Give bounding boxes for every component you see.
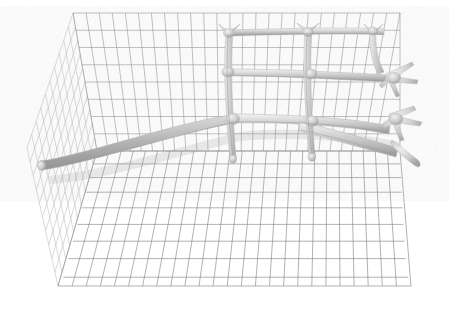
- junction-d: [303, 28, 314, 37]
- branch-1-bottom-tip: [229, 155, 236, 163]
- scene-svg: [0, 0, 449, 310]
- visualization-canvas: [0, 0, 449, 310]
- junction-f: [306, 116, 319, 126]
- star-node-lower-right: [382, 106, 422, 141]
- junction-a: [223, 29, 234, 38]
- branch-2-bottom-tip: [308, 153, 315, 161]
- vertical-branch-3: [370, 30, 384, 74]
- left-wall-grid: [27, 13, 97, 286]
- wireframe-box: [27, 13, 411, 286]
